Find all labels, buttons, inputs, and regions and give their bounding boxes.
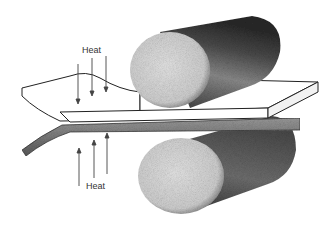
heat-arrow-up-icon <box>77 148 81 186</box>
rolling-diagram: Heat Heat <box>0 0 332 227</box>
lower-roll-face <box>138 138 224 214</box>
heat-label-top: Heat <box>82 45 102 55</box>
heat-arrow-up-icon <box>92 140 96 178</box>
upper-roll-face <box>130 32 210 108</box>
heat-arrow-up-icon <box>105 133 109 174</box>
heat-arrow-down-icon <box>104 56 108 92</box>
heat-label-bottom: Heat <box>86 181 106 191</box>
heat-arrows-bottom <box>77 133 109 186</box>
